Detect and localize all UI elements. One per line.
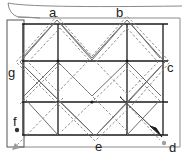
paper-curl — [8, 3, 182, 18]
dashed-diag-1 — [20, 64, 127, 131]
point-center-top-right — [126, 60, 129, 63]
label-f: f — [13, 114, 17, 129]
dashed-diag-2 — [62, 68, 163, 131]
point-center-top — [57, 60, 60, 63]
crease-lower-2 — [98, 66, 161, 133]
label-d: d — [169, 140, 176, 155]
folding-diagram: a b c d e f g — [0, 0, 182, 155]
crease-lower-5 — [24, 62, 161, 96]
label-c: c — [167, 60, 174, 75]
label-g: g — [8, 65, 15, 80]
label-e: e — [95, 139, 102, 154]
label-b: b — [116, 5, 123, 20]
dashed-arrow-left — [14, 98, 63, 148]
crease-inner-2 — [61, 24, 123, 58]
crease-lower-3 — [26, 100, 58, 135]
label-a: a — [49, 5, 57, 20]
point-center-bottom — [91, 101, 94, 104]
point-d — [162, 141, 166, 145]
crease-inner-3 — [131, 24, 160, 58]
